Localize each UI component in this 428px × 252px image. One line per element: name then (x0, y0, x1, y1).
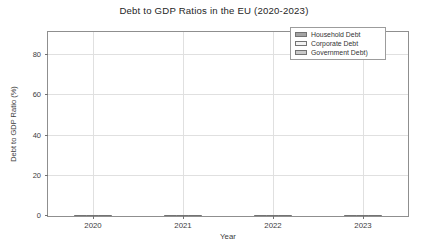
legend: Household DebtCorporate DebtGovernment D… (290, 27, 386, 60)
y-axis-label: Debt to GDP Ratio (%) (9, 86, 18, 162)
legend-swatch-government-debt (295, 50, 307, 55)
bar-government-debt-2021 (189, 215, 202, 216)
y-gridline-40 (48, 135, 408, 136)
x-gridline-2021 (183, 32, 184, 216)
legend-row-corporate-debt: Corporate Debt (295, 40, 380, 47)
y-tick-mark-20 (45, 175, 48, 176)
y-tick-mark-60 (45, 94, 48, 95)
y-tick-label-20: 20 (33, 171, 41, 180)
legend-swatch-corporate-debt (295, 41, 307, 46)
y-tick-label-80: 80 (33, 50, 41, 59)
chart-title: Debt to GDP Ratios in the EU (2020-2023) (0, 5, 428, 16)
bar-government-debt-2023 (369, 215, 382, 216)
x-tick-label-2023: 2023 (354, 221, 371, 230)
y-gridline-60 (48, 94, 408, 95)
y-tick-label-40: 40 (33, 131, 41, 140)
chart-figure: Debt to GDP Ratios in the EU (2020-2023)… (0, 0, 428, 252)
y-tick-mark-40 (45, 135, 48, 136)
y-tick-mark-0 (45, 215, 48, 216)
x-tick-mark-2021 (183, 216, 184, 219)
y-tick-label-60: 60 (33, 90, 41, 99)
x-tick-mark-2022 (273, 216, 274, 219)
bar-government-debt-2020 (99, 215, 112, 216)
x-tick-mark-2023 (363, 216, 364, 219)
legend-label-government-debt: Government Debt) (311, 49, 368, 56)
x-gridline-2020 (93, 32, 94, 216)
legend-label-corporate-debt: Corporate Debt (311, 40, 358, 47)
y-tick-label-0: 0 (37, 211, 41, 220)
x-axis-label: Year (220, 232, 236, 241)
legend-row-household-debt: Household Debt (295, 31, 380, 38)
x-tick-label-2022: 2022 (264, 221, 281, 230)
legend-row-government-debt: Government Debt) (295, 49, 380, 56)
bar-government-debt-2022 (279, 215, 292, 216)
y-gridline-20 (48, 175, 408, 176)
x-tick-label-2021: 2021 (174, 221, 191, 230)
x-tick-mark-2020 (93, 216, 94, 219)
x-gridline-2022 (273, 32, 274, 216)
x-tick-label-2020: 2020 (84, 221, 101, 230)
y-tick-mark-80 (45, 54, 48, 55)
legend-swatch-household-debt (295, 32, 307, 37)
legend-label-household-debt: Household Debt (311, 31, 360, 38)
